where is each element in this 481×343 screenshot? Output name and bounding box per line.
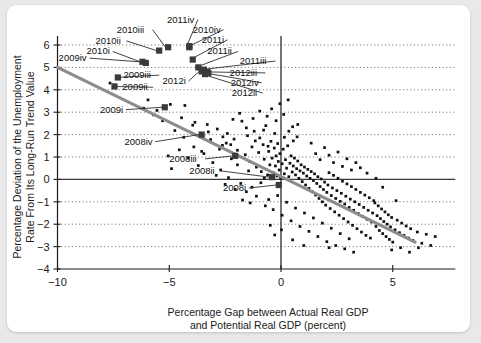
scatter-point (355, 188, 358, 191)
scatter-point (312, 179, 315, 182)
scatter-point (211, 161, 214, 164)
scatter-point (343, 203, 346, 206)
scatter-point (232, 118, 235, 121)
scatter-point (353, 200, 356, 203)
scatter-point (385, 235, 388, 238)
scatter-point (306, 168, 309, 171)
scatter-point (417, 246, 420, 249)
scatter-point (264, 124, 267, 127)
scatter-point (371, 212, 374, 215)
scatter-point (252, 117, 255, 120)
scatter-point (271, 157, 274, 160)
scatter-point (321, 222, 324, 225)
scatter-point (273, 234, 276, 237)
y-tick-labels: −4−3−2−10123456 (37, 39, 50, 275)
point-label: 2009i (100, 104, 123, 115)
scatter-point (384, 211, 387, 214)
leader-line (155, 135, 199, 142)
scatter-point (180, 116, 183, 119)
scatter-point (363, 194, 366, 197)
scatter-point (301, 180, 304, 183)
scatter-point (300, 163, 303, 166)
scatter-point (327, 184, 330, 187)
point-label: 2009iv (59, 52, 87, 63)
scatter-point (222, 135, 225, 138)
scatter-point (275, 119, 278, 122)
scatter-point (356, 227, 359, 230)
scatter-point (290, 155, 293, 158)
scatter-point (303, 166, 306, 169)
scatter-point (294, 174, 297, 177)
highlighted-point (165, 44, 171, 50)
scatter-point (276, 194, 279, 197)
scatter-point (302, 172, 305, 175)
scatter-point (275, 155, 278, 158)
scatter-point (359, 191, 362, 194)
scatter-point (317, 235, 320, 238)
scatter-point (173, 129, 176, 132)
scatter-point (347, 221, 350, 224)
scatter-point (390, 249, 393, 252)
scatter-point (358, 203, 361, 206)
scatter-point (322, 188, 325, 191)
scatter-point (254, 140, 257, 143)
x-tick-label: 5 (390, 276, 396, 288)
scatter-point (169, 103, 172, 106)
scatter-point (325, 191, 328, 194)
scatter-point (282, 148, 285, 151)
scatter-point (253, 130, 256, 133)
scatter-point (341, 180, 344, 183)
scatter-point (279, 152, 282, 155)
scatter-point (319, 185, 322, 188)
x-axis-title-line1: Percentage Gap between Actual Real GDP (168, 306, 369, 318)
scatter-point (280, 228, 283, 231)
scatter-point (255, 195, 258, 198)
scatter-point (241, 120, 244, 123)
scatter-point (170, 167, 173, 170)
scatter-point (262, 129, 265, 132)
y-tick-label: 4 (43, 84, 49, 96)
scatter-point (292, 140, 295, 143)
y-tick-label: 0 (43, 173, 49, 185)
scatter-point (263, 158, 266, 161)
scatter-point (409, 227, 412, 230)
scatter-point (251, 146, 254, 149)
scatter-point (378, 229, 381, 232)
highlighted-point (269, 174, 275, 180)
scatter-point (302, 244, 305, 247)
scatter-point (267, 150, 270, 153)
scatter-point (386, 223, 389, 226)
scatter-point (257, 151, 260, 154)
scatter-point (396, 219, 399, 222)
y-axis-title-line1: Percentage Deviation of the Unemployment (11, 55, 23, 258)
scatter-point (268, 163, 271, 166)
scatter-point (350, 185, 353, 188)
scatter-point (352, 251, 355, 254)
scatter-point (346, 183, 349, 186)
scatter-point (375, 225, 378, 228)
scatter-point (362, 206, 365, 209)
scatter-point (312, 217, 315, 220)
scatter-point (321, 200, 324, 203)
scatter-point (382, 220, 385, 223)
scatter-point (194, 121, 197, 124)
scatter-point (200, 150, 203, 153)
highlighted-point (143, 60, 149, 66)
scatter-point (156, 109, 159, 112)
point-label: 2008iv (125, 136, 153, 147)
scatter-point (334, 197, 337, 200)
scatter-point (207, 131, 210, 134)
scatter-point (192, 146, 195, 149)
scatter-point (287, 175, 290, 178)
scatter-point (400, 222, 403, 225)
scatter-point (368, 196, 371, 199)
point-label: 2011ii (207, 45, 232, 56)
scatter-point (267, 145, 270, 148)
scatter-point (303, 212, 306, 215)
scatter-point (178, 148, 181, 151)
scatter-point (249, 202, 252, 205)
scatter-point (296, 160, 299, 163)
scatter-point (416, 231, 419, 234)
scatter-point (238, 112, 241, 115)
scatter-point (272, 208, 275, 211)
